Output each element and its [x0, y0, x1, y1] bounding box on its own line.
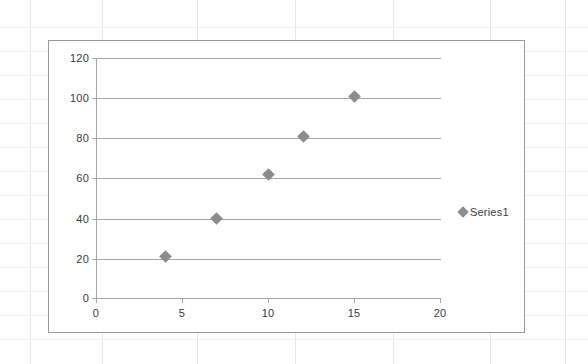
sheet-column-line [565, 0, 566, 364]
y-tick-label: 20 [76, 253, 89, 265]
y-tick-mark [92, 138, 96, 139]
data-point-marker[interactable] [297, 130, 310, 143]
x-tick-mark [182, 299, 183, 303]
x-tick-mark [268, 299, 269, 303]
x-tick-label: 20 [434, 307, 447, 319]
y-tick-mark [92, 58, 96, 59]
gridline-horizontal: 80 [96, 138, 441, 139]
y-tick-mark [92, 219, 96, 220]
y-tick-label: 0 [83, 292, 89, 304]
y-tick-mark [92, 178, 96, 179]
y-tick-label: 120 [70, 52, 89, 64]
gridline-horizontal: 120 [96, 58, 441, 59]
x-tick-mark [96, 299, 97, 303]
plot-area[interactable]: 120 100 80 60 40 [96, 58, 441, 299]
gridline-horizontal: 40 [96, 219, 441, 220]
y-tick-label: 60 [76, 172, 89, 184]
gridline-horizontal: 100 [96, 98, 441, 99]
y-tick-label: 100 [70, 92, 89, 104]
data-point-marker[interactable] [210, 212, 223, 225]
gridline-horizontal: 20 [96, 259, 441, 260]
spreadsheet-chart-screenshot: 120 100 80 60 40 [0, 0, 588, 364]
data-point-marker[interactable] [159, 250, 172, 263]
y-tick-label: 80 [76, 132, 89, 144]
chart-legend[interactable]: Series1 [459, 206, 509, 218]
sheet-column-line [30, 0, 31, 364]
x-tick-label: 10 [262, 307, 275, 319]
x-tick-label: 15 [348, 307, 361, 319]
x-tick-mark [440, 299, 441, 303]
sheet-row-line [0, 27, 588, 28]
legend-label: Series1 [470, 206, 509, 218]
y-tick-label: 40 [76, 213, 89, 225]
y-tick-mark [92, 98, 96, 99]
chart-object[interactable]: 120 100 80 60 40 [48, 40, 525, 333]
sheet-row-line [0, 339, 588, 340]
y-tick-mark [92, 259, 96, 260]
data-point-marker[interactable] [348, 90, 361, 103]
x-tick-mark [354, 299, 355, 303]
x-tick-label: 5 [179, 307, 185, 319]
x-tick-label: 0 [93, 307, 99, 319]
legend-marker-diamond-icon [457, 206, 468, 217]
